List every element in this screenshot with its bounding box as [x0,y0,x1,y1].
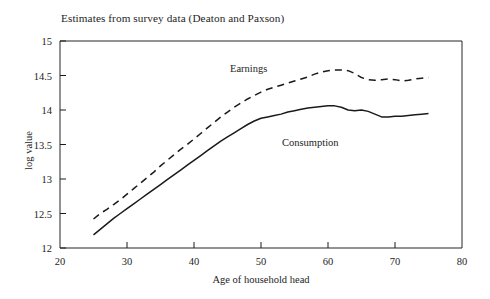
y-tick-label: 14.5 [14,70,52,81]
plot-area [0,0,490,299]
series-annotation-consumption: Consumption [282,137,339,148]
x-tick-label: 30 [122,256,133,267]
x-tick-label: 60 [323,256,334,267]
x-tick-label: 20 [55,256,66,267]
x-tick-label: 40 [189,256,200,267]
x-tick-marks [127,242,395,248]
series-annotation-earnings: Earnings [230,63,267,74]
x-tick-label: 70 [390,256,401,267]
x-tick-label: 80 [457,256,468,267]
series-line-consumption [94,106,429,235]
y-tick-label: 15 [14,36,52,47]
y-tick-label: 12.5 [14,208,52,219]
y-tick-label: 12 [14,243,52,254]
y-axis-label: log value [23,111,34,191]
chart-figure: Estimates from survey data (Deaton and P… [0,0,490,299]
x-axis-label: Age of household head [212,274,309,285]
y-tick-marks [60,41,66,248]
x-tick-label: 50 [256,256,267,267]
